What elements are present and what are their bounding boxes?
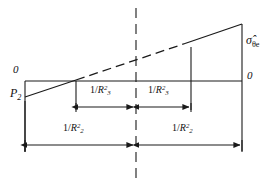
- outer-right-dimension-label: 1/R22: [172, 123, 193, 135]
- stress-line-left-solid: [25, 80, 76, 97]
- outer-left-numerator: 1/: [63, 122, 71, 133]
- pressure-label: P2: [10, 87, 21, 102]
- outer-right-numerator: 1/: [172, 122, 180, 133]
- stress-symbol: σ̂: [246, 33, 252, 47]
- outer-left-sub: 2: [80, 127, 83, 134]
- figure-canvas: 0 0 P2 σ̂θe 1/R23 1/R23 1/R22 1/R22: [0, 0, 277, 184]
- inner-right-numerator: 1/: [148, 84, 156, 95]
- outer-right-sub: 2: [189, 127, 192, 134]
- zero-label-right: 0: [247, 70, 253, 81]
- inner-left-sub: 3: [107, 89, 110, 96]
- zero-label-left: 0: [13, 64, 19, 75]
- inner-left-numerator: 1/: [90, 84, 98, 95]
- inner-right-sub: 3: [165, 89, 168, 96]
- stress-subscript: θe: [252, 40, 260, 49]
- stress-line-right-solid: [185, 24, 242, 44]
- inner-left-dimension-label: 1/R23: [90, 85, 111, 97]
- diagram-svg: [0, 0, 277, 184]
- stress-label: σ̂θe: [246, 34, 259, 49]
- stress-line-dashed: [76, 44, 185, 81]
- outer-left-dimension-label: 1/R22: [63, 123, 84, 135]
- inner-right-dimension-label: 1/R23: [148, 85, 169, 97]
- pressure-subscript: 2: [17, 93, 21, 102]
